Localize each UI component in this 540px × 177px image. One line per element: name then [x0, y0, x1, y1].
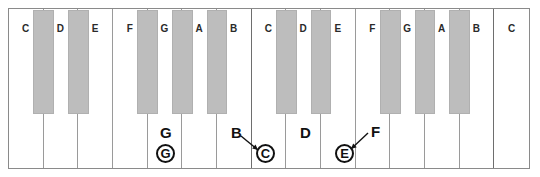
white-key-label: C: [494, 23, 529, 34]
ann-g-plain-letter: G: [160, 125, 172, 140]
black-key-3[interactable]: [172, 10, 193, 114]
black-key-4[interactable]: [207, 10, 228, 114]
ann-g-circled-letter: G: [156, 144, 175, 163]
ann-d-plain-letter: D: [300, 125, 311, 140]
ann-b-c-circled-letter: C: [256, 144, 275, 163]
black-key-5[interactable]: [276, 10, 297, 114]
white-key-c-14[interactable]: C: [494, 9, 529, 168]
black-key-1[interactable]: [68, 10, 89, 114]
ann-f-e-circled-letter: E: [335, 144, 354, 163]
black-key-6[interactable]: [311, 10, 332, 114]
black-key-0[interactable]: [33, 10, 54, 114]
black-key-9[interactable]: [449, 10, 470, 114]
piano-keyboard-figure: CDEFGABCDEFGABC GGBCDFE: [0, 0, 540, 177]
black-key-7[interactable]: [380, 10, 401, 114]
black-key-2[interactable]: [137, 10, 158, 114]
black-key-8[interactable]: [415, 10, 436, 114]
